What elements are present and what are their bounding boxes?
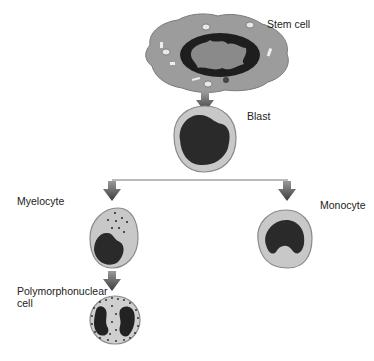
blast-cell-icon <box>174 106 236 172</box>
label-myelocyte: Myelocyte <box>17 195 64 207</box>
label-blast: Blast <box>247 110 270 122</box>
label-stem-cell: Stem cell <box>267 18 310 30</box>
label-polymorphonuclear-cell: Polymorphonuclear cell <box>17 285 107 309</box>
monocyte-cell-icon <box>258 210 312 268</box>
myelocyte-cell-icon <box>90 208 138 268</box>
arrow-blast-to-monocyte <box>278 181 296 201</box>
label-monocyte: Monocyte <box>320 199 366 211</box>
arrow-blast-to-myelocyte <box>103 181 121 201</box>
